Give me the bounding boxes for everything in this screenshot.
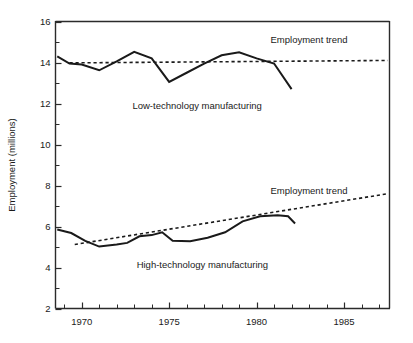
annotation-high-technology-manufacturing: High-technology manufacturing: [137, 259, 269, 270]
chart-background: [0, 0, 413, 343]
x-tick-label: 1970: [71, 316, 92, 327]
y-axis-title: Employment (millions): [6, 118, 17, 211]
x-tick-label: 1985: [333, 316, 354, 327]
y-tick-label: 14: [40, 57, 51, 68]
y-tick-label: 16: [40, 16, 51, 27]
y-tick-label: 8: [45, 180, 50, 191]
annotation-employment-trend: Employment trend: [271, 185, 348, 196]
y-tick-label: 10: [40, 139, 51, 150]
x-tick-label: 1980: [246, 316, 267, 327]
annotation-employment-trend: Employment trend: [271, 34, 348, 45]
annotation-low-technology-manufacturing: Low-technology manufacturing: [132, 100, 261, 111]
x-tick-label: 1975: [159, 316, 180, 327]
y-tick-label: 6: [45, 221, 50, 232]
chart-canvas: 246810121416 1970197519801985 Employment…: [0, 0, 413, 343]
y-tick-label: 2: [45, 303, 50, 314]
y-tick-label: 4: [45, 262, 50, 273]
employment-trend-chart: 246810121416 1970197519801985 Employment…: [0, 0, 413, 343]
y-tick-label: 12: [40, 98, 51, 109]
